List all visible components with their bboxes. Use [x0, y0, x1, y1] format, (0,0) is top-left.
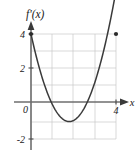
y-tick-label-2: 2 [20, 63, 25, 74]
y-tick-label-neg2: -2 [17, 134, 25, 145]
x-axis-label: x [129, 97, 135, 108]
plot-canvas: 4 2 0 -2 4 f'(x) x [0, 0, 140, 157]
y-tick-label-0: 0 [23, 104, 28, 115]
left-endpoint-dot [29, 32, 33, 36]
x-tick-label-4: 4 [114, 105, 119, 116]
y-tick-label-4: 4 [20, 29, 25, 40]
right-endpoint-dot [114, 32, 118, 36]
derivative-graph-figure: 4 2 0 -2 4 f'(x) x [0, 0, 140, 157]
function-label: f'(x) [26, 8, 45, 21]
